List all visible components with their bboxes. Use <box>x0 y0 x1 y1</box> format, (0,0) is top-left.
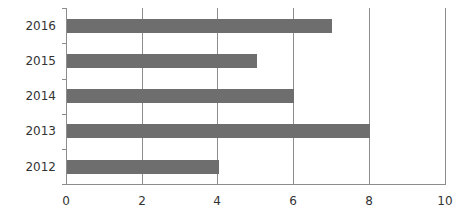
x-tick-label: 10 <box>430 194 460 208</box>
y-label: 2012 <box>0 160 56 174</box>
x-axis-line <box>62 184 446 185</box>
x-tick-label: 2 <box>127 194 157 208</box>
y-tick <box>62 114 66 115</box>
y-label: 2015 <box>0 54 56 68</box>
x-tick-label: 4 <box>202 194 232 208</box>
horizontal-bar-chart: 2016 2015 2014 2013 2012 0 2 4 6 8 10 <box>0 0 468 220</box>
x-tick-label: 0 <box>51 194 81 208</box>
y-label: 2016 <box>0 19 56 33</box>
y-tick <box>62 79 66 80</box>
x-tick-label: 8 <box>354 194 384 208</box>
bar-2015 <box>67 54 257 68</box>
y-tick <box>62 8 66 9</box>
gridline <box>369 8 370 185</box>
y-tick <box>62 149 66 150</box>
x-tick-label: 6 <box>278 194 308 208</box>
gridline <box>445 8 446 185</box>
bar-2016 <box>67 19 332 33</box>
y-tick <box>62 43 66 44</box>
bar-2013 <box>67 124 370 138</box>
bar-2012 <box>67 160 219 174</box>
bar-2014 <box>67 89 294 103</box>
y-label: 2014 <box>0 89 56 103</box>
y-label: 2013 <box>0 124 56 138</box>
